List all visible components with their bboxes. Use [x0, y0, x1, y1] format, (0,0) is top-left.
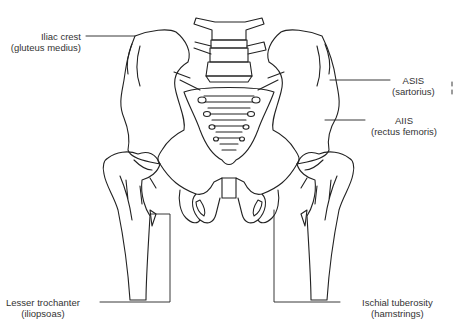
left-femur	[103, 152, 160, 300]
label-asis-name: ASIS	[392, 75, 435, 86]
label-lesser-trochanter: Lesser trochanter (iliopsoas)	[6, 297, 80, 319]
label-aiis-name: AIIS	[371, 115, 437, 126]
label-iliac-crest-muscle: (gluteus medius)	[11, 42, 81, 53]
label-ischial-tuberosity: Ischial tuberosity (hamstrings)	[362, 297, 433, 319]
label-asis-muscle: (sartorius)	[392, 86, 435, 97]
label-iliac-crest: Iliac crest (gluteus medius)	[11, 31, 81, 53]
label-aiis-muscle: (rectus femoris)	[371, 126, 437, 137]
sacrum	[174, 72, 284, 165]
label-lesser-trochanter-muscle: (iliopsoas)	[6, 308, 80, 319]
label-ischial-tuberosity-name: Ischial tuberosity	[362, 297, 433, 308]
label-asis: ASIS (sartorius)	[392, 75, 435, 97]
label-lesser-trochanter-name: Lesser trochanter	[6, 297, 80, 308]
pelvis-diagram: Iliac crest (gluteus medius) ASIS (sarto…	[0, 0, 457, 325]
label-aiis: AIIS (rectus femoris)	[371, 115, 437, 137]
lumbar-vertebrae	[194, 18, 266, 82]
label-iliac-crest-name: Iliac crest	[11, 31, 81, 42]
label-ischial-tuberosity-muscle: (hamstrings)	[362, 308, 433, 319]
right-femur	[297, 152, 354, 300]
right-ilium	[268, 30, 339, 164]
left-ilium	[121, 30, 189, 164]
pubis-and-obturator	[160, 164, 297, 223]
